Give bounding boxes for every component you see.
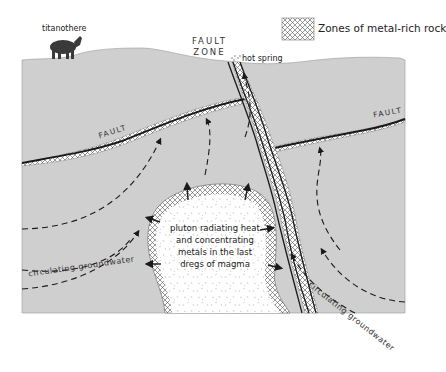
pluton-line-4: dregs of magma xyxy=(160,258,270,270)
hot-spring-label: hot spring xyxy=(242,54,283,63)
fault-zone-line1: FAULT xyxy=(192,36,227,47)
pluton-label: pluton radiating heat and concentrating … xyxy=(160,222,270,270)
fault-zone-line2: ZONE xyxy=(192,47,227,58)
fault-zone-label: FAULT ZONE xyxy=(192,36,227,58)
animal-label: titanothere xyxy=(42,24,87,33)
hot-spring-icon xyxy=(231,55,241,61)
pluton-line-2: and concentrating xyxy=(160,234,270,246)
legend-label: Zones of metal-rich rock xyxy=(318,22,446,34)
pluton-line-1: pluton radiating heat xyxy=(160,222,270,234)
pluton-line-3: metals in the last xyxy=(160,246,270,258)
legend-swatch xyxy=(282,18,314,40)
